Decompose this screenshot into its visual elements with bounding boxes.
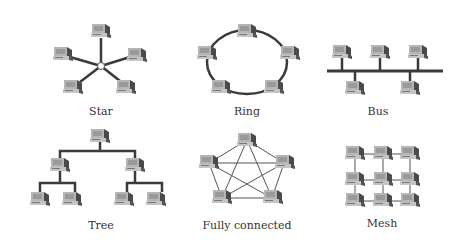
fully-connected-nodes [199,133,295,204]
fully-connected-label: Fully connected [202,219,291,232]
star-topology [70,38,130,82]
network-topologies-diagram: Star Ring Bus Tree Fully connected Mesh [0,0,461,244]
mesh-label: Mesh [367,217,398,230]
ring-label: Ring [234,105,260,118]
mesh-nodes [345,146,420,207]
bus-topology [327,58,443,82]
topology-graphics [0,0,461,244]
fully-connected-topology [209,140,284,198]
tree-label: Tree [88,219,114,232]
star-label: Star [89,105,113,118]
bus-label: Bus [368,105,389,118]
tree-nodes [30,129,166,206]
ring-topology [197,24,300,94]
